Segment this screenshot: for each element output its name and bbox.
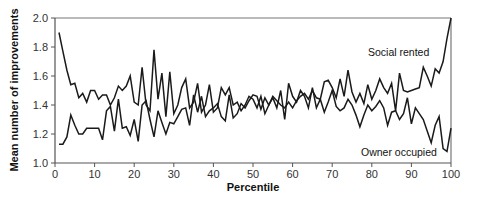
series-line-social-rented [59, 18, 451, 144]
x-tick-label: 10 [88, 168, 100, 180]
y-ticks: 1.01.21.41.61.82.0 [33, 12, 55, 169]
y-tick-label: 1.4 [33, 99, 48, 111]
x-ticks: 0102030405060708090100 [52, 163, 460, 180]
x-tick-label: 80 [366, 168, 378, 180]
x-tick-label: 70 [326, 168, 338, 180]
x-tick-label: 40 [207, 168, 219, 180]
y-tick-label: 1.0 [33, 157, 48, 169]
x-tick-label: 60 [286, 168, 298, 180]
x-tick-label: 0 [52, 168, 58, 180]
x-tick-label: 100 [442, 168, 460, 180]
x-tick-label: 30 [168, 168, 180, 180]
series-label-owner-occupied: Owner occupied [361, 146, 437, 158]
series-lines [59, 18, 451, 151]
series-label-social-rented: Social rented [368, 46, 429, 58]
x-axis-title: Percentile [227, 181, 280, 193]
line-chart: 1.01.21.41.61.82.0 010203040506070809010… [0, 0, 477, 202]
y-tick-label: 2.0 [33, 12, 48, 24]
plot-frame [55, 18, 451, 163]
x-tick-label: 90 [405, 168, 417, 180]
x-tick-label: 50 [247, 168, 259, 180]
y-tick-label: 1.2 [33, 128, 48, 140]
y-tick-label: 1.6 [33, 70, 48, 82]
y-axis-title: Mean number of improvements [8, 8, 20, 171]
y-tick-label: 1.8 [33, 41, 48, 53]
x-tick-label: 20 [128, 168, 140, 180]
